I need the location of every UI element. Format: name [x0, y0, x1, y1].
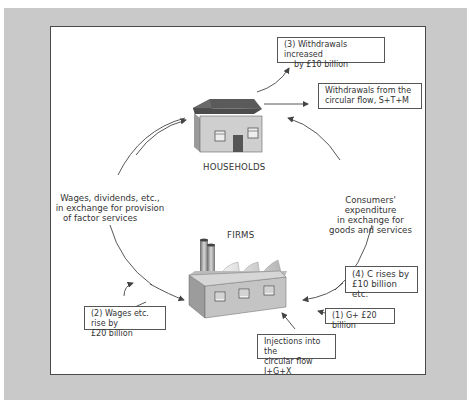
g-plus-box: (1) G+ £20 billion — [325, 308, 395, 324]
wages-rise-up-arrow — [124, 283, 133, 296]
injections-box: Injections into the circular flow I+G+X — [257, 334, 336, 359]
withdrawals-increased-box: (3) Withdrawals increased by £10 billion — [277, 37, 385, 63]
wages-rise-box: (2) Wages etc. rise by £20 billion — [84, 306, 166, 330]
firms-label: FIRMS — [227, 230, 254, 240]
withdrawals-increased-arrow — [257, 68, 289, 92]
households-label: HOUSEHOLDS — [203, 162, 266, 172]
expenditure-flow-label: Consumers' expenditure in exchange for g… — [323, 195, 418, 235]
wages-flow-label: Wages, dividends, etc., in exchange for … — [55, 193, 165, 223]
factory-icon — [189, 239, 287, 319]
c-rises-box: (4) C rises by £10 billion etc. — [345, 266, 418, 293]
c-rises-arrow — [310, 304, 330, 305]
withdrawals-flow-box: Withdrawals from the circular flow, S+T+… — [318, 83, 422, 109]
injections-arrow — [282, 313, 295, 329]
house-icon — [193, 99, 262, 152]
